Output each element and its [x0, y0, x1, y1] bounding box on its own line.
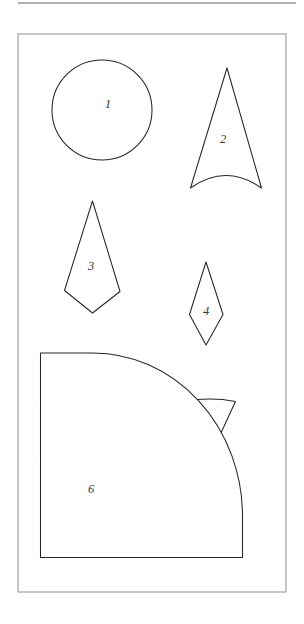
shape-label-6: 6 — [88, 482, 95, 496]
shape-group-2[interactable]: 2 — [191, 68, 262, 188]
shape-group-6[interactable]: 6 — [41, 353, 243, 558]
shapes-canvas: 1 2 3 4 5 6 — [0, 0, 304, 624]
shape-circle-1[interactable] — [52, 60, 152, 160]
shape-label-2: 2 — [220, 132, 226, 146]
shape-l-shape-with-fillet-6[interactable] — [41, 353, 243, 558]
shape-label-3: 3 — [87, 259, 94, 273]
shape-label-1: 1 — [105, 96, 112, 111]
shape-label-4: 4 — [203, 304, 209, 318]
shape-kite-large-3[interactable] — [65, 201, 121, 313]
shape-concave-base-triangle-2[interactable] — [191, 68, 262, 188]
worksheet-page: 1 2 3 4 5 6 — [0, 0, 304, 624]
shape-group-3[interactable]: 3 — [65, 201, 121, 313]
shape-group-4[interactable]: 4 — [190, 262, 224, 345]
shape-group-1[interactable]: 1 — [52, 60, 152, 160]
